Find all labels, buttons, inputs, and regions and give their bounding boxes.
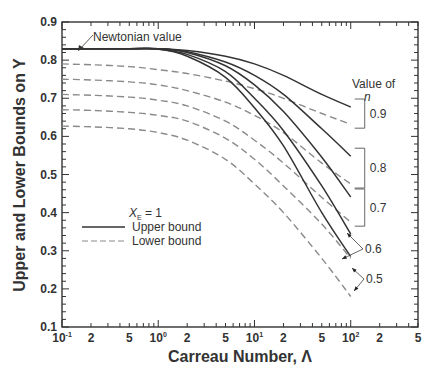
- upper-bound-curve-n-0_5: [62, 48, 351, 256]
- y-tick-label: 0.4: [40, 206, 57, 220]
- x-tick-label-exp: 0: [163, 331, 167, 338]
- x-tick-label: 5: [318, 331, 325, 345]
- y-tick-label: 0.6: [40, 129, 57, 143]
- chart: 10-125100251012510225 0.10.20.30.40.50.6…: [0, 0, 439, 379]
- lower-bound-curve-n-0_5: [62, 126, 351, 296]
- x-tick-label-base: 5: [415, 331, 422, 345]
- lower-bound-curve-n-0_8: [62, 79, 351, 184]
- n-label: 0.5: [366, 272, 383, 286]
- x-axis-title: Carreau Number, Λ: [168, 348, 312, 365]
- x-tick-label: 5: [126, 331, 133, 345]
- data-series: [62, 48, 351, 296]
- x-tick-label-base: 2: [280, 331, 287, 345]
- x-tick-label-base: 10: [246, 331, 260, 345]
- y-tick-label: 0.8: [40, 53, 57, 67]
- x-tick-label-base: 10: [342, 331, 356, 345]
- x-tick-label: 2: [280, 331, 287, 345]
- x-tick-label-base: 5: [126, 331, 133, 345]
- legend-lower-label: Lower bound: [132, 234, 201, 248]
- legend-title-rest: = 1: [142, 206, 163, 220]
- x-tick-label: 5: [222, 331, 229, 345]
- x-tick-label: 102: [342, 331, 359, 345]
- y-tick-label: 0.3: [40, 244, 57, 258]
- value-of-n-title: Value of: [352, 77, 396, 91]
- n-bracket: [355, 148, 365, 188]
- x-tick-label: 100: [150, 331, 167, 345]
- y-tick-label: 0.9: [40, 15, 57, 29]
- x-tick-label-exp: -1: [66, 331, 72, 338]
- n-label: 0.6: [365, 242, 382, 256]
- n-label: 0.9: [370, 107, 387, 121]
- y-tick-label: 0.1: [40, 320, 57, 334]
- x-tick-label-base: 2: [184, 331, 191, 345]
- upper-bound-curve-n-0_7: [62, 48, 351, 197]
- x-tick-label-exp: 1: [259, 331, 263, 338]
- x-tick-label: 2: [184, 331, 191, 345]
- x-tick-label: 2: [88, 331, 95, 345]
- x-axis-ticks: 10-125100251012510225: [52, 22, 421, 345]
- x-tick-label-base: 2: [88, 331, 95, 345]
- y-tick-label: 0.2: [40, 282, 57, 296]
- y-axis-title: Upper and Lower Bounds on Y: [11, 58, 28, 292]
- legend-title: XE = 1: [128, 206, 162, 221]
- n-label: 0.8: [370, 161, 387, 175]
- x-tick-label: 2: [376, 331, 383, 345]
- x-tick-label: 101: [246, 331, 263, 345]
- n-label: 0.7: [370, 201, 387, 215]
- x-tick-label: 5: [415, 331, 422, 345]
- n-bracket: [355, 189, 365, 226]
- y-tick-label: 0.7: [40, 91, 57, 105]
- legend: XE = 1 Upper bound Lower bound: [82, 206, 201, 248]
- x-tick-label-base: 5: [222, 331, 229, 345]
- x-tick-label-base: 2: [376, 331, 383, 345]
- lower-bound-curve-n-0_7: [62, 94, 351, 222]
- newtonian-value-label: Newtonian value: [93, 30, 182, 44]
- x-tick-label-base: 10: [150, 331, 164, 345]
- y-tick-label: 0.5: [40, 168, 57, 182]
- x-tick-label-exp: 2: [355, 331, 359, 338]
- legend-upper-label: Upper bound: [132, 220, 201, 234]
- x-tick-label-base: 5: [318, 331, 325, 345]
